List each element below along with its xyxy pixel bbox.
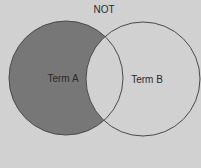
diagram-title: NOT [93,5,114,15]
set-b-label: Term B [131,75,163,85]
set-a-label: Term A [47,74,78,84]
venn-diagram: NOT Term A Term B [0,0,201,168]
venn-graphic [0,0,201,168]
